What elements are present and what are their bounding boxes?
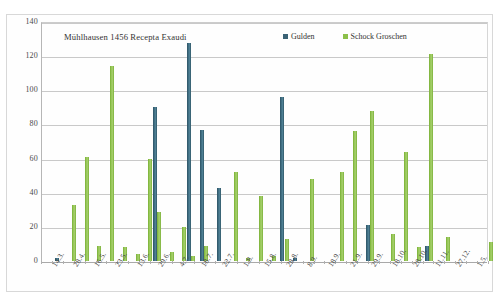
y-tick-label-60: 60 — [4, 155, 38, 163]
bar-gulden-16[interactable] — [217, 188, 221, 261]
bar-schock-groschen-1[interactable] — [72, 205, 76, 261]
bar-schock-groschen-28[interactable] — [370, 111, 374, 261]
plot-area — [41, 22, 488, 261]
bar-gulden-12[interactable] — [187, 43, 191, 262]
legend-item-schock-groschen[interactable]: Schock Groschen — [343, 32, 407, 41]
bar-gulden-21[interactable] — [280, 97, 284, 261]
bar-schock-groschen-35[interactable] — [489, 242, 493, 261]
scan-margin-bottom — [0, 297, 501, 305]
y-tick-label-40: 40 — [4, 189, 38, 197]
legend-swatch-icon-gulden — [283, 34, 288, 39]
bar-schock-groschen-33[interactable] — [429, 54, 433, 261]
bar-schock-groschen-9[interactable] — [157, 212, 161, 262]
y-tick-label-140: 140 — [4, 18, 38, 26]
legend-swatch-icon-schock-groschen — [343, 34, 348, 39]
legend-item-gulden[interactable]: Gulden — [283, 32, 315, 41]
chart-legend: Gulden Schock Groschen — [283, 32, 407, 41]
chart-title: Mühlhausen 1456 Recepta Exaudi — [64, 32, 187, 42]
scan-margin-top — [0, 0, 501, 13]
bar-schock-groschen-26[interactable] — [353, 131, 357, 261]
bar-schock-groschen-4[interactable] — [110, 66, 114, 261]
legend-label-gulden: Gulden — [291, 32, 315, 41]
x-tick-41 — [488, 261, 489, 264]
y-tick-label-20: 20 — [4, 223, 38, 231]
y-tick-label-0: 0 — [4, 257, 38, 265]
bar-schock-groschen-17[interactable] — [234, 172, 238, 261]
y-tick-label-100: 100 — [4, 86, 38, 94]
bar-schock-groschen-25[interactable] — [340, 172, 344, 261]
x-tick-label-9: 1.8. — [242, 254, 255, 268]
y-axis-labels: 140120100806040200 — [0, 22, 38, 261]
y-tick-label-120: 120 — [4, 52, 38, 60]
chart-root: 140120100806040200 14.3.28.4.16.5.23.5.1… — [0, 0, 501, 305]
bar-schock-groschen-30[interactable] — [404, 152, 408, 261]
bar-schock-groschen-24[interactable] — [310, 179, 314, 261]
bar-schock-groschen-2[interactable] — [85, 157, 89, 261]
legend-label-schock-groschen: Schock Groschen — [351, 32, 407, 41]
bar-gulden-14[interactable] — [200, 130, 204, 261]
bar-schock-groschen-19[interactable] — [259, 196, 263, 261]
bars-layer — [42, 23, 487, 261]
y-tick-label-80: 80 — [4, 120, 38, 128]
